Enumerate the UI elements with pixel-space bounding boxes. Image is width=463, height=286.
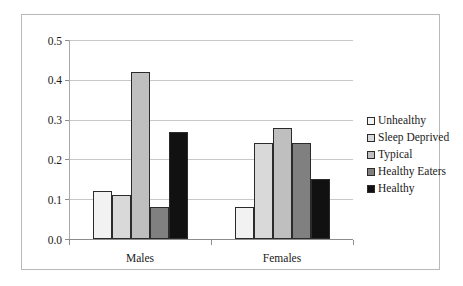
legend-swatch-icon [367,185,375,193]
chart-legend: UnhealthySleep DeprivedTypicalHealthy Ea… [367,112,449,197]
x-axis-tick-mark [211,240,212,245]
legend-label: Typical [378,149,412,161]
y-axis-tick-label: 0.0 [48,234,62,246]
plot-area: 0.00.10.20.30.40.5 MalesFemales [69,40,353,240]
y-axis-tick-label: 0.1 [48,194,62,206]
bar [131,72,150,239]
legend-item[interactable]: Healthy Eaters [367,163,449,180]
bar [311,179,330,239]
bar [93,191,112,239]
y-axis-tick-label: 0.2 [48,155,62,167]
legend-swatch-icon [367,168,375,176]
bar [273,128,292,239]
bar [169,132,188,239]
bar-series-group [69,40,353,240]
legend-swatch-icon [367,151,375,159]
y-axis-tick-label: 0.4 [48,75,62,87]
bar [254,143,273,239]
bar [150,207,169,239]
bar [235,207,254,239]
legend-item[interactable]: Unhealthy [367,112,449,129]
y-axis-tick-label: 0.3 [48,115,62,127]
legend-item[interactable]: Typical [367,146,449,163]
x-axis-category-label: Females [263,253,301,265]
bar [292,143,311,239]
legend-swatch-icon [367,117,375,125]
legend-item[interactable]: Healthy [367,180,449,197]
legend-swatch-icon [367,134,375,142]
legend-item[interactable]: Sleep Deprived [367,129,449,146]
chart-frame: 0.00.10.20.30.40.5 MalesFemales Unhealth… [21,14,440,270]
x-axis-tick-mark [353,240,354,245]
y-axis-tick-label: 0.5 [48,35,62,47]
x-axis-category-label: Males [126,253,154,265]
legend-label: Healthy [378,183,414,195]
legend-label: Sleep Deprived [378,132,449,144]
x-axis-tick-mark [69,240,70,245]
legend-label: Unhealthy [378,115,426,127]
legend-label: Healthy Eaters [378,166,446,178]
bar [112,195,131,239]
